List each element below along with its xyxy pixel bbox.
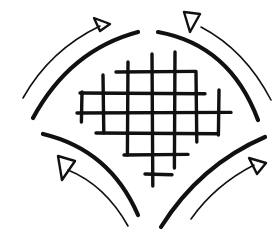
- grid-vertical-line: [103, 75, 104, 133]
- arrowhead-icon: [94, 18, 110, 31]
- arrow-shaft: [68, 170, 128, 226]
- grid-vertical-line: [81, 92, 82, 122]
- arrow-shaft: [23, 26, 100, 98]
- arrow-bottom-right: [191, 158, 266, 219]
- grid-vertical-line: [174, 52, 175, 168]
- boundary-arc-bottom-right: [161, 137, 265, 227]
- arrow-top-left: [23, 18, 110, 98]
- arrow-bottom-left: [58, 156, 128, 226]
- grid-horizontal-line: [145, 174, 172, 175]
- grid-mesh: [77, 52, 231, 186]
- grid-horizontal-line: [80, 93, 205, 94]
- boundary-arc-top-left: [33, 32, 138, 118]
- arrow-shaft: [201, 27, 271, 100]
- grid-horizontal-line: [116, 71, 196, 72]
- grid-expansion-diagram: [0, 0, 280, 241]
- grid-vertical-line: [127, 62, 128, 155]
- grid-horizontal-line: [96, 133, 218, 134]
- boundary-arc-top-right: [158, 32, 258, 120]
- grid-vertical-line: [196, 73, 197, 142]
- arrow-shaft: [191, 165, 254, 219]
- boundary-arc-bottom-left: [43, 134, 138, 215]
- grid-vertical-line: [152, 54, 153, 186]
- grid-horizontal-line: [124, 154, 188, 155]
- boundary-arcs: [33, 32, 265, 227]
- arrowhead-icon: [184, 12, 200, 32]
- grid-horizontal-line: [77, 112, 231, 113]
- outward-arrows: [23, 12, 271, 226]
- arrowhead-icon: [58, 156, 75, 180]
- sketch-canvas: [0, 0, 280, 241]
